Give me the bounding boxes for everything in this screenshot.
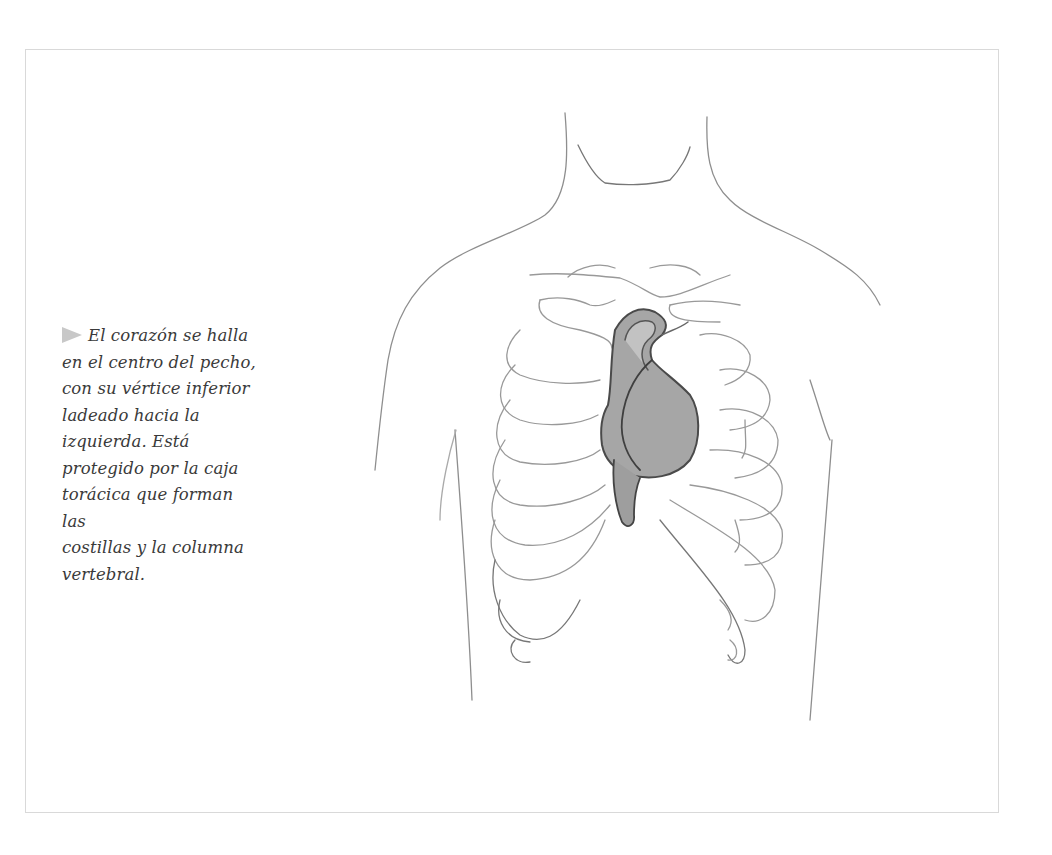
- caption-line: El corazón se halla: [88, 326, 248, 345]
- caption-line: vertebral.: [62, 565, 145, 584]
- caption-line: torácica que forman las: [62, 485, 233, 531]
- caption-line: costillas y la columna: [62, 538, 244, 557]
- caption-line: con su vértice inferior: [62, 379, 250, 398]
- caption-line: ladeado hacia la: [62, 406, 200, 425]
- figure-caption: El corazón se halla en el centro del pec…: [62, 323, 262, 588]
- heart-ribcage-illustration: [330, 100, 1010, 740]
- caption-line: en el centro del pecho,: [62, 353, 256, 372]
- caption-line: izquierda. Está: [62, 432, 189, 451]
- heart-icon: [601, 309, 698, 526]
- caption-line: protegido por la caja: [62, 459, 238, 478]
- triangle-right-icon: [62, 327, 82, 343]
